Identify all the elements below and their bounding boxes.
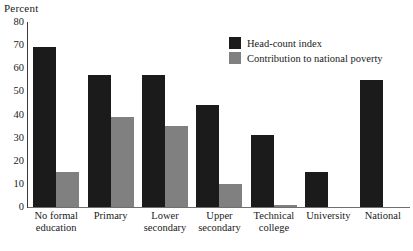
bar <box>111 117 134 207</box>
y-tick-label: 40 <box>2 110 24 120</box>
bar <box>142 75 165 207</box>
legend-label: Contribution to national poverty <box>247 53 383 64</box>
y-tick-label: 10 <box>2 179 24 189</box>
y-axis-tick-labels: 80706050403020100 <box>0 0 24 251</box>
legend-swatch-icon <box>229 52 241 64</box>
x-tick-label: No formal education <box>29 210 83 234</box>
x-tick-label: Lower secondary <box>138 210 192 234</box>
bar <box>274 205 297 207</box>
y-tick-label: 80 <box>2 17 24 27</box>
bar <box>33 47 56 207</box>
bar-group <box>83 22 137 207</box>
x-tick-label: Upper secondary <box>192 210 246 234</box>
bar <box>219 184 242 207</box>
y-tick-label: 30 <box>2 133 24 143</box>
bar-group <box>138 22 192 207</box>
bar <box>56 172 79 207</box>
x-tick-label: University <box>301 210 355 234</box>
bar <box>196 105 219 207</box>
x-axis-tick-labels: No formal educationPrimaryLower secondar… <box>29 210 410 234</box>
x-tick-label: Primary <box>83 210 137 234</box>
y-tick-label: 0 <box>2 202 24 212</box>
x-tick-label: National <box>356 210 410 234</box>
y-tick-label: 60 <box>2 63 24 73</box>
legend-item: Head-count index <box>229 37 383 49</box>
bar <box>165 126 188 207</box>
y-tick-label: 50 <box>2 86 24 96</box>
bar <box>251 135 274 207</box>
y-tick-label: 70 <box>2 40 24 50</box>
bar <box>360 80 383 207</box>
chart-legend: Head-count indexContribution to national… <box>229 37 383 64</box>
legend-item: Contribution to national poverty <box>229 52 383 64</box>
legend-label: Head-count index <box>247 38 322 49</box>
bar-group <box>29 22 83 207</box>
y-axis-line <box>27 22 28 208</box>
bar-chart: Percent 80706050403020100 No formal educ… <box>0 0 413 251</box>
bar <box>305 172 328 207</box>
legend-swatch-icon <box>229 37 241 49</box>
x-axis-line <box>28 207 410 208</box>
y-tick-label: 20 <box>2 156 24 166</box>
bar <box>88 75 111 207</box>
x-tick-label: Technical college <box>247 210 301 234</box>
